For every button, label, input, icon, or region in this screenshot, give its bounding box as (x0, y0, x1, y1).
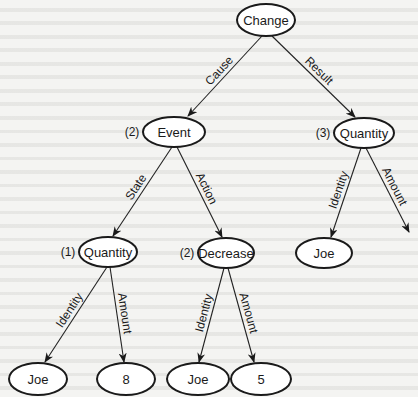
edge-identity: Identity (192, 268, 224, 362)
edge-label: Amount (115, 292, 135, 336)
edge-state: State (113, 147, 172, 236)
node-label: Joe (188, 372, 209, 387)
node-decrease: Decrease(2) (180, 238, 254, 268)
node-quantity1: Quantity(1) (61, 237, 137, 267)
node-label: 5 (257, 372, 264, 387)
node-label: Joe (314, 246, 335, 261)
node-index-label: (2) (180, 246, 195, 260)
semantic-network-diagram: CauseResultStateActionIdentityAmountIden… (0, 0, 418, 397)
arrow-line (272, 36, 355, 117)
node-index-label: (1) (61, 245, 76, 259)
edge-result: Result (272, 36, 355, 117)
node-label: Change (243, 13, 289, 28)
edge-label: Action (193, 170, 220, 206)
arrow-line (45, 267, 107, 362)
node-label: Event (157, 125, 191, 140)
edge-amount: Amount (228, 268, 261, 362)
edge-amount: Amount (110, 267, 135, 362)
node-eight: 8 (97, 363, 155, 395)
node-label: 8 (122, 372, 129, 387)
edge-label: Amount (379, 165, 411, 209)
node-label: Quantity (340, 126, 389, 141)
node-joe_2: Joe (167, 363, 229, 395)
edge-amount: Amount (366, 148, 411, 232)
arrow-line (113, 147, 172, 236)
node-quantity3: Quantity(3) (316, 118, 394, 148)
node-index-label: (2) (125, 125, 140, 139)
arrow-line (188, 36, 262, 116)
edge-action: Action (177, 147, 222, 237)
node-event: Event(2) (125, 117, 205, 147)
node-joe_1: Joe (9, 363, 67, 395)
node-change: Change (237, 4, 295, 36)
edges-layer: CauseResultStateActionIdentityAmountIden… (45, 36, 411, 362)
node-five: 5 (231, 363, 291, 395)
node-label: Decrease (198, 246, 254, 261)
node-index-label: (3) (316, 126, 331, 140)
edge-cause: Cause (188, 36, 262, 116)
node-label: Joe (28, 372, 49, 387)
edge-identity: Identity (45, 267, 107, 362)
edge-identity: Identity (326, 148, 361, 237)
node-joe_right: Joe (296, 238, 352, 268)
node-label: Quantity (84, 245, 133, 260)
